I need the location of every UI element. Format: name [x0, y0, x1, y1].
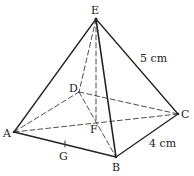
- slant-edge-label: 5 cm: [140, 52, 168, 65]
- edge-EA: [14, 19, 96, 132]
- vertex-label-D: D: [69, 82, 78, 95]
- edge-EB: [96, 19, 116, 157]
- vertex-label-E: E: [91, 4, 99, 17]
- edge-DC: [79, 92, 178, 114]
- pyramid-diagram: E A B C D F G 5 cm 4 cm: [0, 0, 194, 176]
- point-label-G: G: [59, 150, 68, 163]
- vertex-label-B: B: [112, 161, 120, 174]
- point-label-F: F: [90, 123, 98, 136]
- base-edge-label: 4 cm: [149, 137, 177, 150]
- pyramid-svg: E A B C D F G 5 cm 4 cm: [0, 0, 194, 176]
- edge-BC: [116, 114, 178, 157]
- vertex-label-A: A: [2, 127, 12, 140]
- vertex-label-C: C: [181, 108, 189, 121]
- edge-AD: [14, 92, 79, 132]
